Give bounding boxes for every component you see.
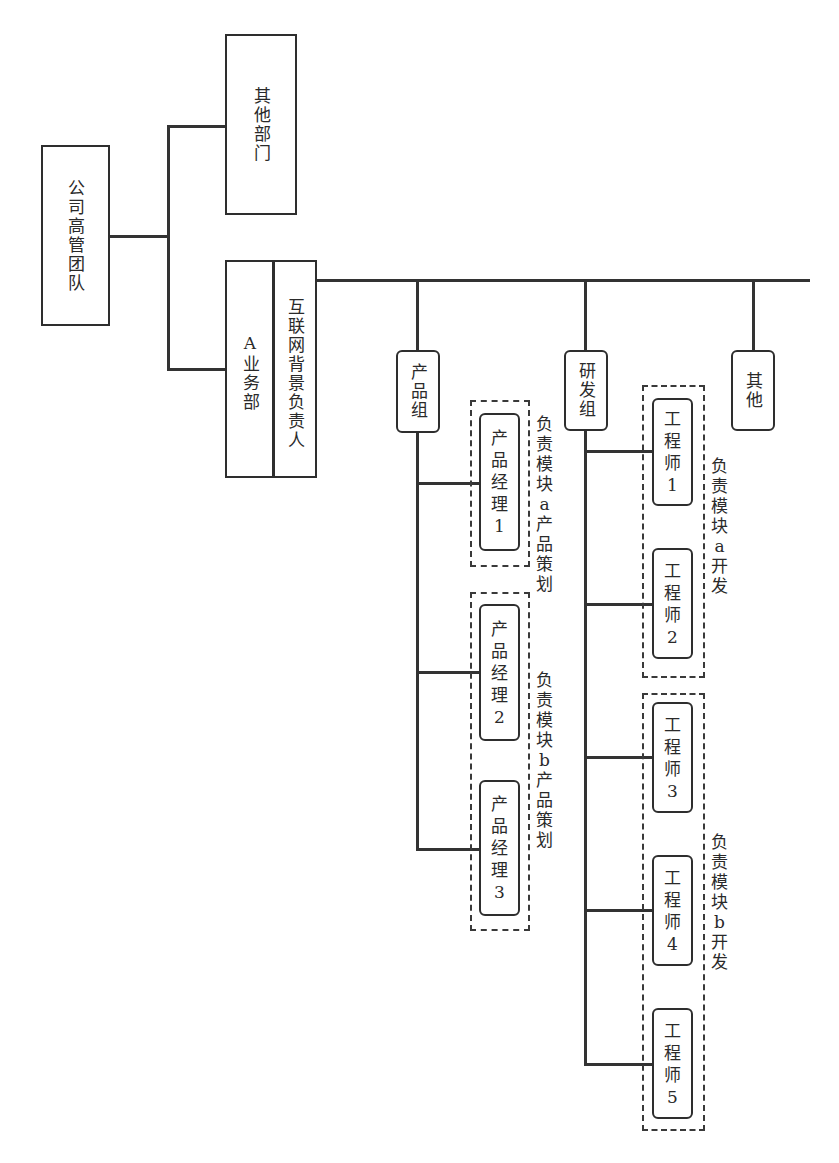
node-label: 公司高管团队 xyxy=(66,179,86,293)
annotation-module-b-product: 负 责 模 块 b 产 品 策 划 xyxy=(536,670,553,850)
node-product-group: 产品组 xyxy=(396,350,440,433)
annotation-module-a-dev: 负 责 模 块 a 开 发 xyxy=(711,456,728,596)
annotation-module-b-dev: 负 责 模 块 b 开 发 xyxy=(711,832,728,972)
node-pm3: 产 品 经 理 3 xyxy=(479,780,520,916)
node-label: 其他 xyxy=(743,372,763,410)
node-label: 产品组 xyxy=(408,363,428,420)
node-eng1: 工程 师1 xyxy=(652,398,693,506)
node-label-internet-lead: 互联网背景负责人 xyxy=(286,298,306,450)
connector-product-vertical xyxy=(416,432,419,850)
connector-bracket-vertical xyxy=(167,125,170,370)
node-business-dept-a: A业务部 互联网背景负责人 xyxy=(225,260,317,478)
connector-to-rd-group xyxy=(584,279,587,350)
connector-to-product-group xyxy=(416,279,419,350)
node-eng2: 工程 师2 xyxy=(652,548,693,659)
node-executive-team: 公司高管团队 xyxy=(41,145,110,326)
node-label: 其他部门 xyxy=(251,87,271,163)
connector-to-business-dept xyxy=(167,368,226,371)
node-label: 研发组 xyxy=(576,362,596,419)
node-rd-group: 研发组 xyxy=(564,350,608,431)
connector-rd-vertical xyxy=(584,430,587,1065)
node-label-business-dept: A业务部 xyxy=(240,333,260,412)
node-eng4: 工程 师4 xyxy=(652,855,693,966)
node-other-departments: 其他部门 xyxy=(225,34,297,215)
annotation-module-a-product: 负 责 模 块 a 产 品 策 划 xyxy=(536,414,553,594)
node-eng3: 工程 师3 xyxy=(652,702,693,813)
node-pm2: 产 品 经 理 2 xyxy=(479,604,520,741)
connector-to-others xyxy=(752,279,755,350)
connector-exec-to-bracket xyxy=(109,235,169,238)
connector-main-horizontal xyxy=(316,279,810,282)
node-pm1: 产 品 经 理 1 xyxy=(479,413,520,551)
node-eng5: 工程 师5 xyxy=(652,1008,693,1119)
node-others: 其他 xyxy=(731,350,775,431)
connector-to-other-departments xyxy=(167,125,226,128)
